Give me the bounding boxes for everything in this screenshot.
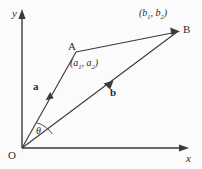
x-axis-arrowhead <box>179 144 189 151</box>
point-b-label: B <box>183 24 190 35</box>
y-axis <box>18 9 25 148</box>
vector-b-line <box>22 32 177 148</box>
y-axis-arrowhead <box>18 9 25 19</box>
diagram-canvas <box>0 0 202 169</box>
vector-b-label: b <box>110 87 116 98</box>
angle-theta-label: θ <box>36 126 41 136</box>
point-a-label: A <box>68 41 76 52</box>
segment-AB-group <box>76 28 180 52</box>
x-axis <box>22 144 189 151</box>
vector-diagram: y x O A B (a1, a2) (b1, b2) a b θ <box>0 0 202 169</box>
origin-label: O <box>8 150 16 161</box>
vector-a-line <box>22 52 76 148</box>
segment-OB <box>22 32 177 148</box>
y-axis-label: y <box>12 8 17 19</box>
segment-OA <box>22 52 76 148</box>
paren-close: ) <box>164 7 167 18</box>
paren-close: ) <box>95 57 98 68</box>
vector-a-label: a <box>33 81 39 92</box>
point-a-coordinates: (a1, a2) <box>70 58 98 71</box>
segment-AB <box>76 32 177 52</box>
x-axis-label: x <box>186 153 191 164</box>
point-b-coordinates: (b1, b2) <box>139 8 167 21</box>
